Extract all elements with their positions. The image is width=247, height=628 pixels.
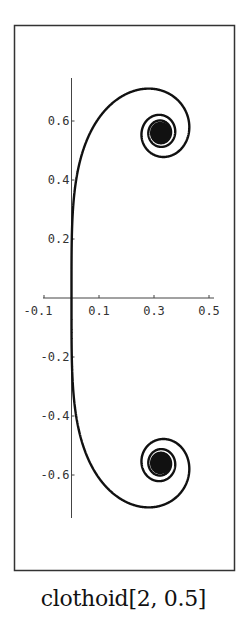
x-tick-label: 0.5: [198, 304, 220, 318]
y-tick-label: -0.4: [41, 409, 70, 423]
y-tick-label: 0.6: [48, 114, 70, 128]
clothoid-curve-lower: [72, 298, 190, 507]
y-tick-label: -0.2: [41, 350, 70, 364]
x-tick-label: -0.1: [24, 304, 53, 318]
plot-area: -0.10.10.30.5 0.60.40.2-0.2-0.4-0.6: [0, 0, 247, 628]
x-tick-label: 0.1: [88, 304, 110, 318]
chart-caption: clothoid[2, 0.5]: [0, 586, 247, 611]
y-tick-label: 0.4: [48, 173, 70, 187]
x-tick-label: 0.3: [143, 304, 165, 318]
y-tick-label: 0.2: [48, 232, 70, 246]
clothoid-curve-upper: [72, 89, 190, 298]
y-tick-label: -0.6: [41, 468, 70, 482]
